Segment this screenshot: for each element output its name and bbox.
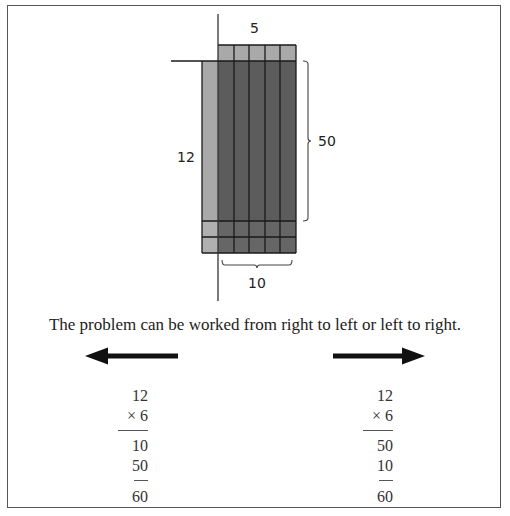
partial-product-2: 10 xyxy=(377,457,393,475)
total: 60 xyxy=(132,488,148,506)
label-left: 12 xyxy=(177,149,195,165)
tens-block xyxy=(218,61,296,221)
right-arrow-icon xyxy=(333,348,425,365)
light-column xyxy=(202,61,218,221)
calculation-left: 12 × 6 10 50 60 xyxy=(88,387,148,507)
label-bottom: 10 xyxy=(248,275,266,291)
calculation-right: 12 × 6 50 10 60 xyxy=(333,387,393,507)
sum-rule xyxy=(134,480,148,481)
right-brace-icon xyxy=(303,61,311,221)
bottom-brace-icon xyxy=(222,260,292,268)
partial-product-1: 10 xyxy=(132,437,148,455)
total: 60 xyxy=(377,488,393,506)
multiplier: × 6 xyxy=(372,407,393,425)
sum-rule xyxy=(379,480,393,481)
partial-product-2: 50 xyxy=(132,457,148,475)
label-top: 5 xyxy=(250,20,259,36)
multiplicand: 12 xyxy=(377,387,393,405)
multiplicand: 12 xyxy=(132,387,148,405)
product-rule xyxy=(118,430,148,431)
left-arrow-icon xyxy=(85,348,178,365)
label-right: 50 xyxy=(318,133,336,149)
caption: The problem can be worked from right to … xyxy=(0,315,510,335)
top-row xyxy=(218,45,296,61)
multiplier: × 6 xyxy=(127,407,148,425)
product-rule xyxy=(363,430,393,431)
partial-product-1: 50 xyxy=(377,437,393,455)
area-model-diagram xyxy=(0,0,510,516)
